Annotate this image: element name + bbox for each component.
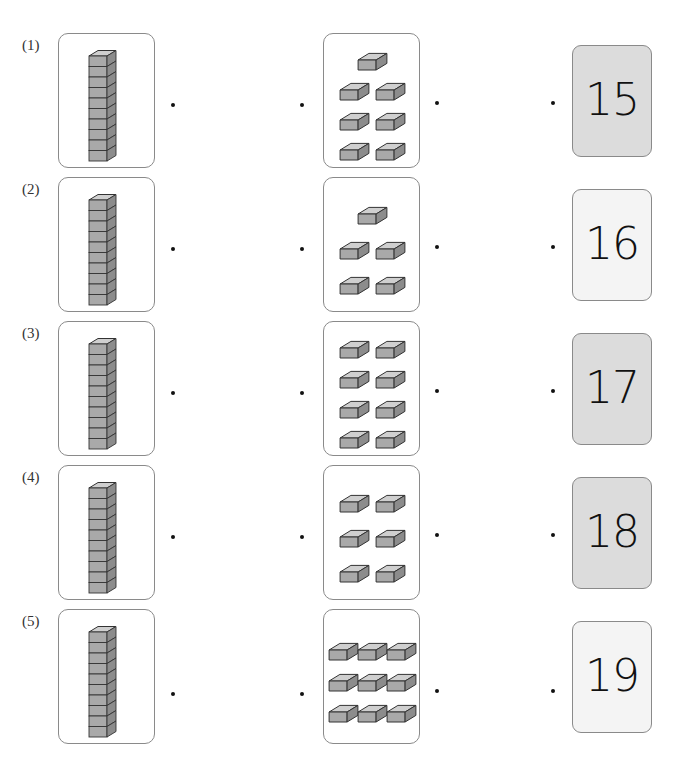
match-dot-mid-right[interactable] <box>435 689 439 693</box>
match-dot-mid-left[interactable] <box>300 692 304 696</box>
match-dot-left-card[interactable] <box>171 391 175 395</box>
unit-blocks-icon <box>324 610 421 745</box>
unit-blocks-icon <box>324 322 421 457</box>
ten-rod-icon <box>59 466 156 601</box>
match-dot-number[interactable] <box>551 389 555 393</box>
match-dot-mid-right[interactable] <box>435 533 439 537</box>
number-card: 16 <box>572 189 652 301</box>
unit-blocks-card <box>323 609 420 744</box>
item-number-label: (4) <box>22 469 40 486</box>
ten-rod-icon <box>59 322 156 457</box>
item-number-label: (3) <box>22 325 40 342</box>
match-dot-mid-left[interactable] <box>300 247 304 251</box>
match-dot-left-card[interactable] <box>171 535 175 539</box>
unit-blocks-icon <box>324 178 421 313</box>
match-dot-mid-left[interactable] <box>300 391 304 395</box>
ten-rod-card <box>58 609 155 744</box>
unit-blocks-card <box>323 177 420 312</box>
match-dot-mid-left[interactable] <box>300 535 304 539</box>
match-dot-left-card[interactable] <box>171 692 175 696</box>
ten-rod-card <box>58 321 155 456</box>
number-card: 15 <box>572 45 652 157</box>
match-dot-number[interactable] <box>551 533 555 537</box>
match-dot-mid-right[interactable] <box>435 101 439 105</box>
unit-blocks-icon <box>324 466 421 601</box>
item-number-label: (1) <box>22 37 40 54</box>
unit-blocks-icon <box>324 34 421 169</box>
number-card: 17 <box>572 333 652 445</box>
number-value: 16 <box>573 218 651 269</box>
ten-rod-card <box>58 177 155 312</box>
match-dot-mid-right[interactable] <box>435 245 439 249</box>
number-value: 17 <box>573 362 651 413</box>
number-value: 18 <box>573 506 651 557</box>
exercise-row: (4) 18 <box>0 465 677 609</box>
match-dot-mid-right[interactable] <box>435 389 439 393</box>
ten-rod-icon <box>59 178 156 313</box>
match-dot-left-card[interactable] <box>171 103 175 107</box>
unit-blocks-card <box>323 33 420 168</box>
ten-rod-card <box>58 465 155 600</box>
exercise-row: (3) <box>0 321 677 465</box>
match-dot-number[interactable] <box>551 245 555 249</box>
exercise-row: (2) 16 <box>0 177 677 321</box>
match-dot-left-card[interactable] <box>171 247 175 251</box>
number-value: 19 <box>573 650 651 701</box>
number-card: 18 <box>572 477 652 589</box>
ten-rod-icon <box>59 610 156 745</box>
exercise-row: (5) <box>0 609 677 753</box>
exercise-row: (1) 1 <box>0 33 677 177</box>
item-number-label: (5) <box>22 613 40 630</box>
unit-blocks-card <box>323 321 420 456</box>
ten-rod-card <box>58 33 155 168</box>
match-dot-number[interactable] <box>551 689 555 693</box>
item-number-label: (2) <box>22 181 40 198</box>
number-card: 19 <box>572 621 652 733</box>
match-dot-mid-left[interactable] <box>300 103 304 107</box>
number-value: 15 <box>573 74 651 125</box>
unit-blocks-card <box>323 465 420 600</box>
ten-rod-icon <box>59 34 156 169</box>
match-dot-number[interactable] <box>551 101 555 105</box>
